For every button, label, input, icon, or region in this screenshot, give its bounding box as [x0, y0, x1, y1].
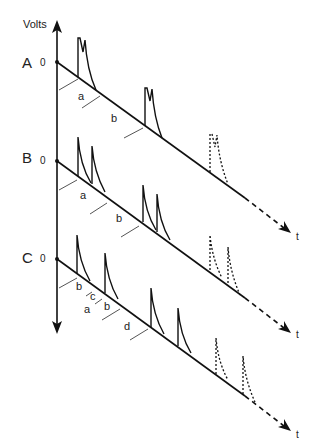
row-A: A 0 t a b [22, 38, 299, 242]
time-label-A: t [296, 231, 299, 242]
segment-label: b [116, 212, 122, 224]
segment-label: b [104, 300, 110, 312]
time-label-B: t [296, 329, 299, 340]
segment-label: c [90, 290, 96, 302]
time-arrow-icon [278, 419, 291, 431]
segment-label: d [124, 320, 130, 332]
row-C: C 0 t b c a b d [22, 235, 299, 440]
zero-label-B: 0 [40, 155, 46, 166]
segment-label: b [111, 112, 117, 124]
time-axis-C [57, 259, 245, 396]
segment-label: b [76, 280, 82, 292]
row-B: B 0 a b [22, 137, 291, 333]
row-label-C: C [22, 249, 33, 266]
time-axis-B [57, 161, 245, 298]
time-axis-A [57, 62, 245, 198]
zero-label-C: 0 [40, 253, 46, 264]
zero-label-A: 0 [40, 57, 46, 68]
row-label-B: B [22, 149, 32, 166]
segment-label: a [80, 189, 87, 201]
segment-label: a [84, 303, 91, 315]
y-axis-label: Volts [23, 18, 47, 30]
time-arrow-icon [278, 321, 291, 333]
segment-label: a [78, 90, 85, 102]
row-label-A: A [22, 54, 32, 71]
spike-train-diagram: Volts A 0 t a b B 0 [0, 0, 309, 446]
time-label-C: t [296, 429, 299, 440]
time-arrow-icon [278, 221, 291, 233]
